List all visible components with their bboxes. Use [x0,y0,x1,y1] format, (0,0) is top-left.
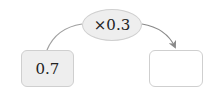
start-value-label: 0.7 [36,60,60,78]
start-value-box: 0.7 [21,50,74,87]
operation-bubble: ×0.3 [82,9,142,41]
flow-diagram: ×0.3 0.7 [0,0,211,92]
arc-to-result-arrow [142,24,175,47]
result-answer-box[interactable] [149,50,203,87]
operation-label: ×0.3 [94,16,130,34]
arc-to-operation [47,24,82,50]
